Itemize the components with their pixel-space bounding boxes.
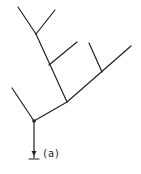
arrow-head-icon	[32, 151, 37, 156]
branch-top-left	[18, 7, 36, 34]
branch-top-right	[36, 10, 55, 34]
branch-middle	[49, 42, 77, 65]
figure-label: (a)	[42, 148, 60, 159]
branching-tree-diagram	[0, 0, 141, 174]
branch-lower-left	[12, 88, 34, 121]
main-trunk-upper	[36, 34, 67, 102]
root-node	[32, 119, 36, 123]
branch-right-main	[67, 46, 131, 102]
branch-lower-connector	[34, 102, 67, 121]
branch-right-sub	[89, 43, 102, 72]
